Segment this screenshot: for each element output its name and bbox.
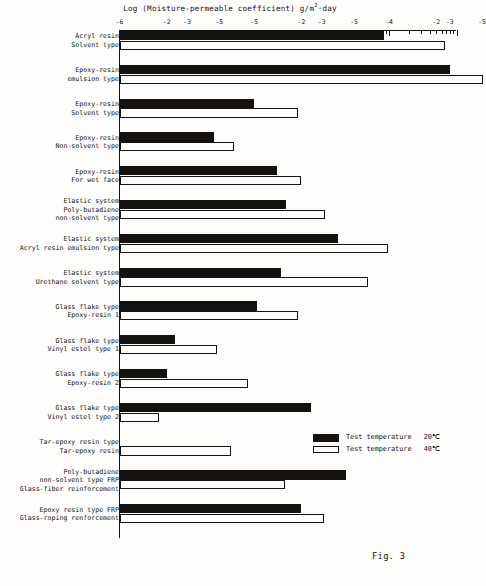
category-label-line: non-solvent type: [0, 214, 119, 223]
bar-40c: [120, 311, 299, 320]
category-label: Glass flake typeEpoxy-resin 2: [0, 370, 119, 387]
axis-tick-label: -5: [215, 18, 223, 26]
category-label-line: Elastic system: [0, 235, 119, 244]
bar-40c: [120, 480, 285, 489]
category-label-line: Glass-fiber reinforcement: [0, 485, 119, 494]
bar-20c: [120, 504, 302, 513]
category-label: Epoxy-resinNon-solvent type: [0, 134, 119, 151]
bar-40c: [120, 277, 369, 286]
category-label-line: Vinyl estel type 2: [0, 413, 119, 422]
bar-20c: [120, 470, 346, 479]
axis-tick-major: [389, 30, 390, 36]
category-label-line: Non-solvent type: [0, 142, 119, 151]
category-label-line: Epoxy-resin: [0, 168, 119, 177]
legend-label-40c: Test temperature 40℃: [346, 444, 440, 456]
legend-label-20c: Test temperature 20℃: [346, 432, 440, 444]
category-label-line: Epoxy resin type FRP: [0, 506, 119, 515]
axis-tick-minor: [442, 30, 443, 34]
bar-20c: [120, 99, 255, 108]
category-label-line: non-solvent type FRP: [0, 476, 119, 485]
category-label: Poly-butadienenon-solvent type FRPGlass-…: [0, 468, 119, 494]
axis-tick-label: -3: [446, 18, 454, 26]
axis-tick-label: -3: [318, 18, 326, 26]
category-label-line: Solvent type: [0, 41, 119, 50]
category-label-line: Tar-epoxy resin type: [0, 438, 119, 447]
category-label-line: Poly-butadiene: [0, 206, 119, 215]
category-label-line: Glass flake type: [0, 370, 119, 379]
category-label-line: emulsion type: [0, 75, 119, 84]
category-label: Glass flake typeEpoxy-resin 1: [0, 303, 119, 320]
axis-tick-minor: [446, 30, 447, 34]
axis-tick-label: -2: [163, 18, 171, 26]
axis-tick-minor: [430, 30, 431, 34]
axis-tick-label: -2: [298, 18, 306, 26]
category-label-line: Solvent type: [0, 109, 119, 118]
axis-tick-minor: [421, 30, 422, 34]
bar-40c: [120, 108, 299, 117]
bar-40c: [120, 176, 302, 185]
bar-40c: [120, 142, 235, 151]
axis-tick-label: -3: [183, 18, 191, 26]
axis-tick-minor: [453, 30, 454, 34]
category-label-line: Acryl resin emulsion type: [0, 244, 119, 253]
category-label-line: Epoxy-resin: [0, 100, 119, 109]
bar-40c: [120, 379, 248, 388]
axis-tick-minor: [409, 30, 410, 34]
category-label-line: Poly-butadiene: [0, 468, 119, 477]
axis-tick-label: -6: [116, 18, 124, 26]
axis-tick-label: -5: [250, 18, 258, 26]
category-label: Epoxy resin type FRPGlass-roping renforc…: [0, 506, 119, 523]
legend-item: Test temperature 20℃: [313, 432, 440, 444]
bar-40c: [120, 345, 218, 354]
bar-20c: [120, 200, 286, 209]
category-label-line: Epoxy-resin: [0, 66, 119, 75]
category-label: Elastic systemPoly-butadienenon-solvent …: [0, 197, 119, 223]
category-label: Epoxy-resinemulsion type: [0, 66, 119, 83]
bar-20c: [120, 31, 385, 40]
bar-20c: [120, 335, 175, 344]
category-label: Elastic systemUrethane solvent type: [0, 269, 119, 286]
figure-caption: Fig. 3: [372, 551, 405, 561]
category-label: Epoxy-resinSolvent type: [0, 100, 119, 117]
category-label-line: Vinyl estel type 1: [0, 345, 119, 354]
category-label-line: Epoxy-resin 2: [0, 379, 119, 388]
legend: Test temperature 20℃ Test temperature 40…: [313, 432, 440, 455]
axis-title: Log (Moisture-permeable coefficient) g/m…: [0, 2, 460, 13]
category-label-line: Elastic system: [0, 269, 119, 278]
category-label-line: Glass flake type: [0, 404, 119, 413]
axis-tick-minor: [436, 30, 437, 34]
bar-40c: [120, 413, 159, 422]
bar-20c: [120, 301, 258, 310]
category-label: Glass flake typeVinyl estel type 1: [0, 337, 119, 354]
bar-20c: [120, 166, 278, 175]
category-label-line: Glass flake type: [0, 337, 119, 346]
category-label-line: Tar-epoxy resin: [0, 447, 119, 456]
bar-20c: [120, 132, 214, 141]
bar-40c: [120, 244, 388, 253]
axis-tick-label: -2: [432, 18, 440, 26]
category-label-line: Epoxy-resin: [0, 134, 119, 143]
axis-tick-label: -4: [385, 18, 393, 26]
category-label: Acryl resinSolvent type: [0, 32, 119, 49]
bar-40c: [120, 41, 446, 50]
bar-40c: [120, 514, 325, 523]
axis-tick-label: -5: [350, 18, 358, 26]
axis-title-units: g/m2·day: [300, 4, 337, 13]
axis-tick-label: -5: [478, 18, 486, 26]
category-label: Elastic systemAcryl resin emulsion type: [0, 235, 119, 252]
category-label-line: Elastic system: [0, 197, 119, 206]
axis-tick-minor: [386, 30, 387, 34]
category-label-line: Acryl resin: [0, 32, 119, 41]
axis-title-text: Log (Moisture-permeable coefficient): [123, 4, 295, 13]
bar-20c: [120, 369, 167, 378]
category-label: Epoxy-resinFor wet face: [0, 168, 119, 185]
bar-40c: [120, 75, 484, 84]
category-label: Tar-epoxy resin typeTar-epoxy resin: [0, 438, 119, 455]
legend-swatch-20c: [313, 434, 339, 442]
category-label: Glass flake typeVinyl estel type 2: [0, 404, 119, 421]
category-label-line: For wet face: [0, 176, 119, 185]
category-label-line: Urethane solvent type: [0, 278, 119, 287]
bar-20c: [120, 268, 282, 277]
category-label-line: Glass flake type: [0, 303, 119, 312]
